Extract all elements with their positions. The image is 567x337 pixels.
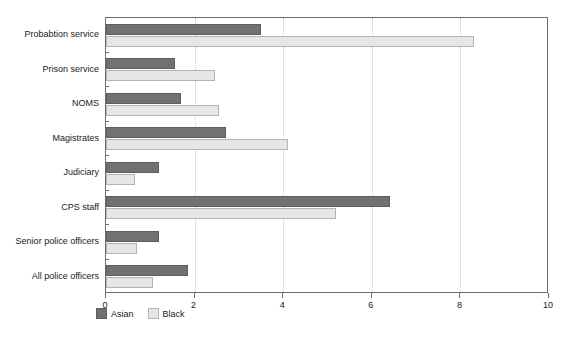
y-axis-label-2: NOMS bbox=[0, 98, 99, 108]
x-axis-tick-label-6: 6 bbox=[368, 300, 373, 310]
y-axis-label-4: Judiciary bbox=[0, 167, 99, 177]
x-axis-tick-10 bbox=[548, 293, 549, 298]
bar-asian-4 bbox=[106, 162, 159, 173]
bar-asian-0 bbox=[106, 24, 261, 35]
gridline-x-2 bbox=[195, 18, 196, 292]
x-axis-tick-label-8: 8 bbox=[457, 300, 462, 310]
x-axis-tick-6 bbox=[371, 293, 372, 298]
gridline-x-6 bbox=[372, 18, 373, 292]
bar-chart: Probabtion servicePrison serviceNOMSMagi… bbox=[0, 0, 567, 337]
bar-black-7 bbox=[106, 277, 153, 288]
y-axis-tick-3 bbox=[105, 121, 109, 122]
y-axis-label-0: Probabtion service bbox=[0, 29, 99, 39]
gridline-x-4 bbox=[283, 18, 284, 292]
y-axis-label-1: Prison service bbox=[0, 64, 99, 74]
bar-black-1 bbox=[106, 70, 215, 81]
bar-asian-3 bbox=[106, 127, 226, 138]
legend-swatch-black bbox=[148, 308, 159, 319]
y-axis-label-7: All police officers bbox=[0, 271, 99, 281]
x-axis-tick-4 bbox=[282, 293, 283, 298]
bar-black-0 bbox=[106, 36, 474, 47]
legend-label-black: Black bbox=[163, 309, 185, 319]
x-axis-tick-8 bbox=[459, 293, 460, 298]
x-axis-tick-0 bbox=[105, 293, 106, 298]
bar-black-5 bbox=[106, 208, 336, 219]
legend-label-asian: Asian bbox=[111, 309, 134, 319]
y-axis-label-5: CPS staff bbox=[0, 202, 99, 212]
bar-asian-1 bbox=[106, 58, 175, 69]
bar-black-6 bbox=[106, 243, 137, 254]
y-axis-labels: Probabtion servicePrison serviceNOMSMagi… bbox=[0, 17, 99, 293]
y-axis-tick-6 bbox=[105, 224, 109, 225]
legend-item-black[interactable]: Black bbox=[148, 308, 185, 319]
x-axis-tick-label-10: 10 bbox=[543, 300, 553, 310]
y-axis-label-3: Magistrates bbox=[0, 133, 99, 143]
x-axis-tick-label-2: 2 bbox=[191, 300, 196, 310]
y-axis-tick-5 bbox=[105, 190, 109, 191]
chart-legend: AsianBlack bbox=[96, 308, 185, 319]
x-axis-tick-2 bbox=[194, 293, 195, 298]
y-axis-label-6: Senior police officers bbox=[0, 236, 99, 246]
bar-asian-6 bbox=[106, 231, 159, 242]
legend-item-asian[interactable]: Asian bbox=[96, 308, 134, 319]
y-axis-tick-4 bbox=[105, 155, 109, 156]
bar-black-4 bbox=[106, 174, 135, 185]
x-axis-tick-label-4: 4 bbox=[280, 300, 285, 310]
bar-black-2 bbox=[106, 105, 219, 116]
plot-area bbox=[105, 17, 548, 293]
y-axis-tick-2 bbox=[105, 86, 109, 87]
bar-asian-7 bbox=[106, 265, 188, 276]
y-axis-tick-1 bbox=[105, 52, 109, 53]
bar-asian-2 bbox=[106, 93, 181, 104]
bar-asian-5 bbox=[106, 196, 390, 207]
y-axis-tick-7 bbox=[105, 259, 109, 260]
bar-black-3 bbox=[106, 139, 288, 150]
gridline-x-8 bbox=[460, 18, 461, 292]
legend-swatch-asian bbox=[96, 308, 107, 319]
